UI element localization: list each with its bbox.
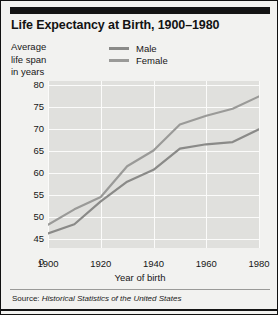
x-axis-tick-label: 1900 (26, 258, 70, 269)
y-axis-tick-label: 70 (20, 124, 44, 134)
y-axis-tick-label: 75 (20, 102, 44, 112)
gridline-vertical (259, 81, 260, 248)
y-axis-tick-label: 80 (20, 80, 44, 90)
y-axis-tick-label: 55 (20, 190, 44, 200)
x-axis-title: Year of birth (1, 272, 278, 283)
legend-item-female: Female (109, 55, 168, 68)
series-line-male (48, 129, 259, 233)
legend-label-female: Female (136, 55, 168, 66)
line-swatch-icon (109, 59, 129, 62)
y-axis-tick-label: 45 (20, 234, 44, 244)
y-axis-caption: Average life span in years (11, 41, 46, 79)
source-prefix: Source: (12, 294, 42, 303)
bottom-rule (1, 309, 278, 311)
y-axis-caption-line-2: life span (11, 54, 46, 67)
line-swatch-icon (109, 47, 129, 50)
x-axis-tick-label: 1960 (184, 258, 228, 269)
title-rule (10, 7, 270, 14)
y-axis-tick-labels: 04550556065707580 (18, 81, 44, 261)
legend-item-male: Male (109, 42, 168, 55)
chart-legend: Male Female (109, 42, 168, 67)
source-work-title: Historical Statistics of the United Stat… (42, 294, 182, 303)
source-note: Source: Historical Statistics of the Uni… (12, 294, 181, 303)
chart-title: Life Expectancy at Birth, 1900–1980 (11, 18, 271, 32)
y-axis-tick-label: 50 (20, 212, 44, 222)
x-axis-tick-labels: 19001920194019601980 (48, 258, 259, 272)
plot-area (48, 81, 259, 248)
y-axis-caption-line-3: in years (11, 66, 46, 79)
legend-label-male: Male (136, 43, 157, 54)
y-axis-tick-label: 65 (20, 146, 44, 156)
y-axis-tick-label: 60 (20, 168, 44, 178)
x-axis-tick-label: 1980 (237, 258, 278, 269)
x-axis-tick-label: 1940 (132, 258, 176, 269)
source-divider (10, 289, 270, 290)
series-line-female (48, 96, 259, 224)
chart-figure: Life Expectancy at Birth, 1900–1980 Aver… (0, 0, 278, 315)
y-axis-caption-line-1: Average (11, 41, 46, 54)
x-axis-tick-label: 1920 (79, 258, 123, 269)
series-lines (48, 81, 259, 248)
